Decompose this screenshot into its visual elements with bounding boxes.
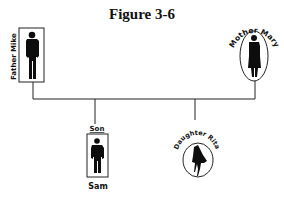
son-node: Son Sam	[87, 125, 108, 191]
relationship-lines	[33, 81, 255, 124]
genogram: Father Mike Mother Mary Son Sam Daughter…	[0, 0, 284, 198]
male-silhouette-icon	[26, 32, 39, 79]
female-silhouette-icon	[192, 145, 207, 176]
male-silhouette-icon	[91, 138, 104, 173]
female-silhouette-icon	[248, 35, 261, 77]
mother-node: Mother Mary	[227, 26, 281, 81]
son-name-label: Sam	[88, 182, 108, 191]
daughter-node: Daughter Rita	[172, 129, 221, 177]
son-role-label: Son	[90, 125, 105, 133]
father-label: Father Mike	[10, 33, 18, 80]
father-node: Father Mike	[10, 28, 44, 82]
